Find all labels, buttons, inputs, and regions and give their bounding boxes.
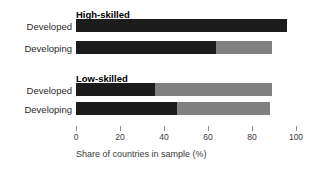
bar-segment-dark <box>76 83 155 96</box>
axis-tick <box>76 126 77 131</box>
bar-segment-dark <box>76 19 287 32</box>
category-label-low-developing: Developing <box>0 105 72 115</box>
axis-tick <box>208 126 209 131</box>
category-label-low-developed: Developed <box>0 86 72 96</box>
axis-tick <box>120 126 121 131</box>
stacked-bar-chart: High-skilled Developed Developing Low-sk… <box>0 0 327 170</box>
bar-segment-dark <box>76 102 177 115</box>
bar-high-developing <box>76 41 296 54</box>
bar-segment-light <box>177 102 269 115</box>
bar-low-developed <box>76 83 296 96</box>
bar-segment-light <box>216 41 272 54</box>
axis-tick-label-0: 0 <box>74 133 79 142</box>
axis-tick <box>164 126 165 131</box>
bar-segment-dark <box>76 41 216 54</box>
axis-tick-label-80: 80 <box>247 133 256 142</box>
axis-tick <box>296 126 297 131</box>
axis-tick-label-20: 20 <box>115 133 124 142</box>
axis-tick-label-60: 60 <box>203 133 212 142</box>
axis-tick <box>252 126 253 131</box>
category-label-high-developing: Developing <box>0 44 72 54</box>
x-axis-title: Share of countries in sample (%) <box>76 149 207 159</box>
bar-high-developed <box>76 19 296 32</box>
x-axis: 0 20 40 60 80 100 <box>76 126 296 150</box>
axis-tick-label-100: 100 <box>289 133 303 142</box>
axis-tick-label-40: 40 <box>159 133 168 142</box>
category-label-high-developed: Developed <box>0 22 72 32</box>
bar-segment-light <box>155 83 272 96</box>
bar-low-developing <box>76 102 296 115</box>
